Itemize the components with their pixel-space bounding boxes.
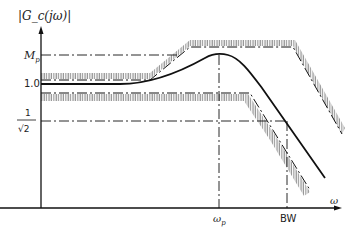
upper-tolerance-band: [41, 40, 345, 134]
frequency-response-diagram: |G_c(jω)| Mp 1.0 1 √2 ωp BW ω: [0, 0, 347, 233]
inv-sqrt2-numerator: 1: [25, 108, 31, 118]
x-axis-label: ω: [330, 195, 338, 206]
lower-tolerance-band: [41, 93, 310, 196]
one-label: 1.0: [24, 78, 40, 89]
y-axis-arrow-icon: [39, 26, 44, 34]
y-axis-label: |G_c(jω)|: [18, 9, 71, 23]
inv-sqrt2-denominator: √2: [18, 124, 29, 134]
x-axis-arrow-icon: [334, 206, 342, 211]
bw-label: BW: [280, 213, 297, 224]
mp-label: Mp: [23, 49, 40, 64]
wp-label: ωp: [213, 213, 226, 227]
